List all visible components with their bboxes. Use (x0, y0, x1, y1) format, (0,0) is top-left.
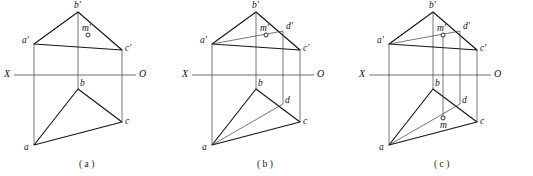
vertex-label-c-prime-b: c' (303, 44, 309, 54)
axis-label-x-b: X (182, 69, 188, 79)
point-marker-m-prime-c (441, 33, 445, 37)
vertex-label-c-prime-a: c' (125, 44, 131, 54)
axis-label-x-a: X (4, 69, 10, 79)
vertex-label-a-prime-c: a' (377, 36, 384, 46)
vertex-label-c-a: c (125, 117, 129, 127)
point-label-d-prime-c: d' (463, 22, 470, 32)
vertex-label-a-b: a (202, 143, 207, 153)
point-label-m-c: m (440, 121, 447, 131)
point-marker-m-prime-a (86, 33, 90, 37)
panel-caption-c: ( c ) (434, 160, 449, 170)
aux-line-ad-frontal-b (212, 31, 283, 44)
point-label-m-prime-b: m' (260, 24, 269, 34)
vertex-label-b-b: b (258, 79, 263, 89)
point-label-m-prime-a: m' (82, 24, 91, 34)
vertex-label-a-c: a (379, 143, 384, 153)
axis-label-o-b: O (317, 69, 324, 79)
vertex-label-b-prime-b: b' (252, 1, 259, 11)
vertex-label-b-a: b (80, 79, 85, 89)
point-label-d-c: d (462, 96, 467, 106)
axis-label-o-a: O (139, 69, 146, 79)
axis-label-x-c: X (359, 69, 365, 79)
vertex-label-b-prime-c: b' (429, 1, 436, 11)
vertex-label-a-a: a (24, 143, 29, 153)
vertex-label-c-prime-c: c' (480, 44, 486, 54)
aux-line-ad-horizontal-b (212, 104, 283, 145)
panel-caption-a: ( a ) (79, 160, 94, 170)
point-label-d-prime-b: d' (286, 22, 293, 32)
vertex-label-c-c: c (480, 117, 484, 127)
aux-line-ad-horizontal-c (389, 104, 460, 145)
vertex-label-c-b: c (303, 117, 307, 127)
panel-caption-b: ( b ) (257, 160, 273, 170)
horizontal-triangle-a (34, 89, 122, 145)
vertex-label-b-prime-a: b' (74, 1, 81, 11)
projection-figure-root: XOb'a'c'bacm'( a )XOb'a'c'bacm'd'd( b )X… (0, 0, 533, 176)
panel-b (192, 12, 314, 145)
vertex-label-b-c: b (435, 79, 440, 89)
panel-a (14, 12, 136, 145)
axis-label-o-c: O (494, 69, 501, 79)
point-marker-m-prime-b (264, 33, 268, 37)
vertex-label-a-prime-a: a' (22, 36, 29, 46)
aux-line-ad-frontal-c (389, 31, 460, 44)
vertex-label-a-prime-b: a' (200, 36, 207, 46)
point-label-m-prime-c: m' (437, 24, 446, 34)
point-label-d-b: d (285, 96, 290, 106)
panel-c (369, 12, 491, 145)
